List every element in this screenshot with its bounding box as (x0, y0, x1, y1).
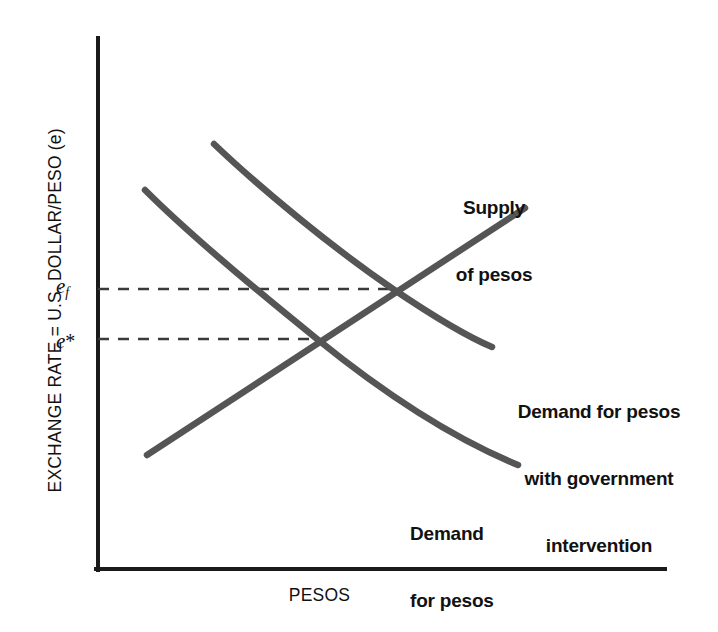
demand-label-line-1: Demand (410, 523, 580, 545)
demand-gov-label-line-1: Demand for pesos (487, 401, 711, 423)
y-tick-label-ef: ef (56, 274, 69, 301)
demand-for-pesos-label: Demand for pesos (410, 478, 580, 632)
y-tick-ef-base: e (56, 274, 65, 298)
y-tick-label-estar: e* (56, 329, 75, 354)
supply-label-line-2: of pesos (429, 264, 559, 286)
guide-lines-group (98, 289, 394, 339)
demand-label-line-2: for pesos (410, 590, 580, 612)
y-axis-title: EXCHANGE RATE = U.S. DOLLAR/PESO (e) (45, 100, 66, 520)
y-tick-estar-base: e (56, 329, 65, 353)
y-tick-estar-asterisk: * (65, 330, 75, 352)
exchange-rate-supply-demand-figure: EXCHANGE RATE = U.S. DOLLAR/PESO (e) PES… (0, 0, 718, 632)
supply-of-pesos-label: Supply of pesos (429, 152, 559, 331)
y-tick-ef-subscript: f (65, 285, 69, 300)
supply-label-line-1: Supply (429, 197, 559, 219)
